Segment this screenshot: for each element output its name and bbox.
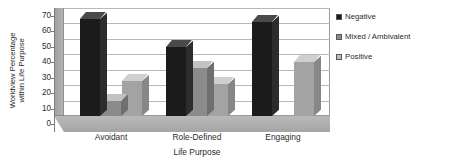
bar-series-group <box>54 8 330 132</box>
bar-front <box>80 19 100 116</box>
chart-legend: Negative Mixed / Ambivalent Positive <box>336 12 450 72</box>
bar-engaging-negative <box>252 22 272 116</box>
legend-item-positive: Positive <box>336 52 450 61</box>
y-axis-tick-labels: 706050403020100 <box>30 9 54 131</box>
y-tick-label: 50 <box>42 43 51 51</box>
bar-front <box>294 62 314 116</box>
legend-swatch-icon-negative <box>336 14 342 20</box>
legend-swatch-icon-positive <box>336 54 342 60</box>
bar-engaging-positive <box>294 62 314 116</box>
y-tick-label: 10 <box>42 105 51 113</box>
x-category-label: Engaging <box>238 132 329 142</box>
x-axis-title: Life Purpose <box>54 147 340 157</box>
x-axis-category-labels: AvoidantRole-DefinedEngaging <box>54 132 340 146</box>
plot-area <box>54 8 330 132</box>
y-axis-title-line2: within Life Purpose <box>17 38 26 102</box>
legend-label-negative: Negative <box>345 12 376 21</box>
y-axis-title-line1: Worldview Percentage <box>8 32 17 108</box>
y-tick-label: 40 <box>42 58 51 66</box>
chart-figure: Worldview Percentage within Life Purpose… <box>0 0 452 167</box>
bar-front <box>166 47 186 116</box>
legend-item-mixed-ambivalent: Mixed / Ambivalent <box>336 32 450 41</box>
y-tick-label: 30 <box>42 74 51 82</box>
bar-side <box>142 74 149 116</box>
bar-side <box>207 62 214 116</box>
legend-swatch-icon-mixed <box>336 34 342 40</box>
x-category-label: Avoidant <box>66 132 157 142</box>
y-axis-title: Worldview Percentage within Life Purpose <box>2 10 32 130</box>
bar-side <box>100 13 107 116</box>
y-tick-label: 20 <box>42 89 51 97</box>
bar-side <box>186 40 193 116</box>
bar-role-defined-negative <box>166 47 186 116</box>
legend-item-negative: Negative <box>336 12 450 21</box>
bar-front <box>252 22 272 116</box>
bar-avoidant-negative <box>80 19 100 116</box>
bar-side <box>272 16 279 116</box>
y-tick-label: 70 <box>42 12 51 20</box>
x-category-label: Role-Defined <box>152 132 243 142</box>
legend-label-mixed-ambivalent: Mixed / Ambivalent <box>345 32 410 41</box>
y-tick-label: 60 <box>42 27 51 35</box>
legend-label-positive: Positive <box>345 52 372 61</box>
bar-side <box>314 56 321 116</box>
